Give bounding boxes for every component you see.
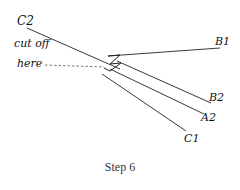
line-b1: [108, 48, 220, 56]
label-a2: A2: [200, 111, 216, 124]
label-c1: C1: [184, 132, 199, 145]
line-a2: [110, 69, 204, 114]
label-b1: B1: [214, 35, 230, 48]
label-cut-off: cut off: [14, 37, 52, 50]
label-c2: C2: [17, 14, 34, 28]
label-here: here: [17, 57, 43, 70]
label-b2: B2: [208, 91, 224, 104]
line-c1: [102, 74, 186, 131]
line-b2: [117, 61, 211, 103]
step-caption: Step 6: [0, 160, 240, 175]
cut-dashed-line: [45, 65, 104, 67]
